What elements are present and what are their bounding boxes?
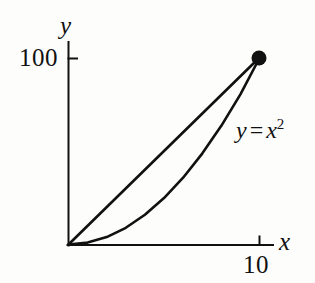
endpoint-dot <box>252 51 267 66</box>
curve-equation-label: y=x2 <box>236 118 284 142</box>
equation-variable: x <box>266 117 277 143</box>
equation-equals-sign: = <box>247 117 267 143</box>
chord-line <box>69 59 259 245</box>
y-axis-label: y <box>60 13 71 38</box>
figure-canvas: y x 100 10 y=x2 <box>0 0 315 283</box>
x-axis-label: x <box>279 229 290 254</box>
equation-lhs: y <box>236 117 247 143</box>
y-tick-label-100: 100 <box>19 45 58 70</box>
x-tick-label-10: 10 <box>243 252 269 277</box>
equation-exponent: 2 <box>277 116 285 132</box>
